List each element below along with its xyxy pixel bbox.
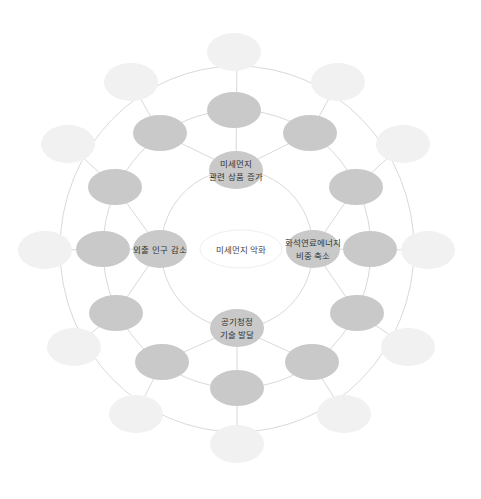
outer-node bbox=[401, 231, 455, 269]
outer-node bbox=[381, 328, 435, 366]
inner-node-bottom: 공기청정 기술 발달 bbox=[210, 309, 264, 347]
middle-node bbox=[329, 169, 383, 205]
middle-node bbox=[343, 231, 397, 267]
inner-node-right-line1: 화석연료에너지 bbox=[285, 238, 341, 248]
middle-node bbox=[283, 115, 337, 151]
outer-node bbox=[376, 125, 430, 163]
outer-node bbox=[47, 328, 101, 366]
middle-node bbox=[88, 169, 142, 205]
middle-node bbox=[89, 295, 143, 331]
outer-node bbox=[41, 125, 95, 163]
inner-node-right-line2: 비중 축소 bbox=[296, 251, 331, 261]
inner-node-top: 미세먼지 관련 상품 증가 bbox=[209, 151, 263, 189]
middle-node bbox=[330, 295, 384, 331]
middle-node bbox=[207, 92, 261, 128]
center-node: 미세먼지 악화 bbox=[200, 230, 282, 268]
outer-node bbox=[210, 425, 264, 463]
outer-node bbox=[104, 63, 158, 101]
inner-node-right: 화석연료에너지 비중 축소 bbox=[285, 230, 341, 268]
middle-node bbox=[210, 370, 264, 406]
inner-node-bottom-line2: 기술 발달 bbox=[220, 330, 255, 340]
outer-node bbox=[317, 395, 371, 433]
inner-node-top-line2: 관련 상품 증가 bbox=[209, 172, 262, 182]
middle-node bbox=[76, 231, 130, 267]
middle-node bbox=[135, 344, 189, 380]
inner-node-left: 외출 인구 감소 bbox=[133, 230, 187, 268]
outer-node bbox=[311, 63, 365, 101]
mind-map-diagram: 미세먼지 관련 상품 증가 화석연료에너지 비중 축소 공기청정 기술 발달 외… bbox=[0, 0, 481, 499]
inner-node-bottom-line1: 공기청정 bbox=[221, 317, 253, 327]
middle-node bbox=[285, 344, 339, 380]
outer-node bbox=[18, 231, 72, 269]
center-label: 미세먼지 악화 bbox=[216, 245, 267, 255]
middle-node bbox=[133, 115, 187, 151]
inner-node-top-line1: 미세먼지 bbox=[220, 159, 252, 169]
outer-node bbox=[207, 33, 261, 71]
outer-node bbox=[109, 395, 163, 433]
inner-node-left-label: 외출 인구 감소 bbox=[133, 245, 186, 255]
